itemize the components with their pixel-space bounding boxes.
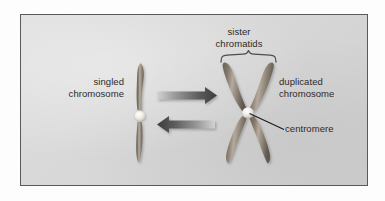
- reverse-arrow: [157, 116, 215, 133]
- forward-arrow: [157, 87, 217, 104]
- label-duplicated-chromosome: duplicated chromosome: [279, 76, 375, 99]
- single-chromosome-lower-arm: [136, 122, 142, 163]
- label-singled-chromosome: singled chromosome: [38, 76, 124, 99]
- single-chromosome-upper-arm: [137, 63, 144, 110]
- label-duplicated-chromosome-line1: duplicated: [279, 76, 375, 88]
- label-sister-chromatids-line1: sister: [196, 26, 282, 38]
- diagram-graphics: [0, 0, 385, 201]
- chromatid-arm-upper-right: [250, 62, 274, 111]
- chromatid-arm-lower-right: [250, 116, 271, 164]
- chromosome-duplication-figure: singled chromosome sister chromatids dup…: [0, 0, 385, 201]
- label-duplicated-chromosome-line2: chromosome: [279, 88, 375, 100]
- label-singled-chromosome-line2: chromosome: [38, 88, 124, 100]
- single-chromosome-centromere: [135, 111, 145, 121]
- chromatid-arm-upper-left: [223, 62, 247, 111]
- label-centromere: centromere: [285, 123, 365, 135]
- duplicated-chromosome-centromere: [242, 107, 253, 117]
- chromatid-arm-lower-left: [226, 116, 247, 164]
- label-singled-chromosome-line1: singled: [38, 76, 124, 88]
- sister-chromatids-brace: [221, 51, 276, 62]
- label-sister-chromatids-line2: chromatids: [196, 38, 282, 50]
- label-sister-chromatids: sister chromatids: [196, 26, 282, 49]
